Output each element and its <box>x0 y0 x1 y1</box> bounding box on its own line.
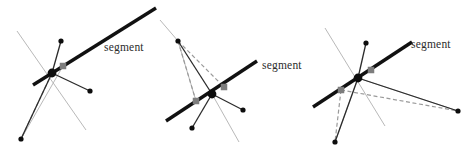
segment-marker-0-0 <box>60 63 67 70</box>
light-guide-line-0-1 <box>21 66 63 139</box>
dashed-connector-2-0 <box>341 90 458 111</box>
ray-endpoint-0-0 <box>58 38 63 43</box>
light-guide-line-0-0 <box>17 31 86 130</box>
segment-marker-1-0 <box>193 98 200 105</box>
ray-endpoint-0-2 <box>18 136 23 141</box>
ray-0-1 <box>52 73 90 91</box>
light-guide-line-1-0 <box>160 20 178 41</box>
vertex-point-1 <box>208 90 217 99</box>
ray-endpoint-0-1 <box>87 88 92 93</box>
vertex-point-2 <box>354 74 363 83</box>
vertex-point-0 <box>48 69 57 78</box>
ray-1-0 <box>178 41 212 94</box>
ray-endpoint-2-1 <box>455 108 460 113</box>
segment-label-right: segment <box>411 38 451 50</box>
segment-marker-2-1 <box>368 67 375 74</box>
ray-endpoint-2-2 <box>332 139 337 144</box>
segment-marker-1-1 <box>221 84 228 91</box>
ray-endpoint-2-0 <box>363 40 368 45</box>
ray-endpoint-1-2 <box>189 125 194 130</box>
geometry-canvas <box>0 0 475 155</box>
ray-endpoint-1-0 <box>175 38 180 43</box>
segment-label-middle: segment <box>262 59 302 71</box>
segment-label-left: segment <box>104 41 144 53</box>
segment-line-2 <box>313 42 412 107</box>
segment-marker-2-0 <box>338 87 345 94</box>
geometry-figure: segment segment segment <box>0 0 475 155</box>
ray-endpoint-1-1 <box>240 107 245 112</box>
